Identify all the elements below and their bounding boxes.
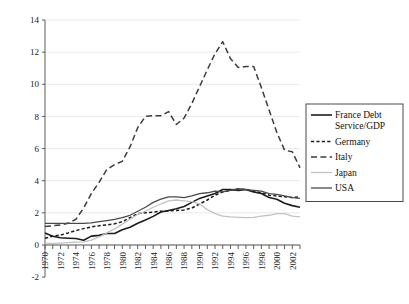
x-tick-label: 1992 (210, 252, 220, 270)
y-tick-label: 10 (30, 79, 40, 89)
y-tick-label: 4 (35, 176, 40, 186)
x-tick-label: 1986 (164, 252, 174, 271)
x-tick-label: 1970 (40, 252, 50, 271)
x-tick-label: 1988 (179, 252, 189, 271)
y-tick-label: 14 (30, 15, 40, 25)
x-tick-label: 1990 (195, 252, 205, 271)
series-line-italy (45, 42, 300, 227)
legend-label: Japan (335, 168, 357, 178)
series-line-japan (45, 200, 300, 243)
x-tick-label: 1996 (241, 252, 251, 271)
y-tick-label: 2 (35, 208, 40, 218)
x-tick-label: 2000 (272, 252, 282, 271)
legend-label-continued: Service/GDP (335, 121, 385, 131)
line-chart: -202468101214 19701972197419761978198019… (0, 0, 409, 304)
y-tick-label: 0 (35, 240, 40, 250)
legend-label: Italy (335, 152, 353, 162)
chart-container: -202468101214 19701972197419761978198019… (0, 0, 409, 304)
x-tick-label: 2002 (288, 252, 298, 270)
x-tick-label: 1998 (257, 252, 267, 271)
x-tick-label: 1980 (118, 252, 128, 271)
y-tick-label: 6 (35, 144, 40, 154)
legend-label: France Debt (335, 110, 382, 120)
legend-label: Germany (335, 137, 371, 147)
x-tick-label: 1994 (226, 252, 236, 271)
chart-legend: France DebtService/GDPGermanyItalyJapanU… (306, 104, 403, 202)
y-tick-label: 8 (35, 112, 40, 122)
y-axis: -202468101214 (30, 15, 45, 282)
x-tick-label: 1976 (87, 252, 97, 271)
x-tick-label: 1972 (56, 252, 66, 270)
x-tick-label: 1974 (71, 252, 81, 271)
legend-label: USA (335, 183, 354, 193)
y-tick-label: -2 (32, 272, 40, 282)
x-tick-label: 1982 (133, 252, 143, 270)
x-axis: 1970197219741976197819801982198419861988… (40, 245, 300, 270)
y-tick-label: 12 (30, 47, 39, 57)
x-tick-label: 1978 (102, 252, 112, 271)
x-tick-label: 1984 (149, 252, 159, 271)
